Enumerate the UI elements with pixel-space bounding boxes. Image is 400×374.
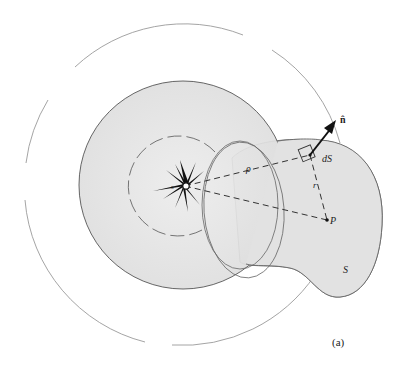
- source-center: [183, 183, 189, 189]
- label-source-s: s: [171, 183, 174, 191]
- label-ds: dS: [322, 153, 332, 164]
- label-surface-s: S: [343, 264, 348, 275]
- label-rho: ρ: [245, 163, 251, 174]
- label-normal: n̂: [340, 114, 346, 125]
- diagram-figure: n̂ dS ρ r P S s (a): [0, 0, 400, 374]
- label-r: r: [313, 180, 317, 190]
- label-p: P: [329, 215, 336, 226]
- point-p: [325, 218, 329, 222]
- panel-label: (a): [332, 336, 345, 349]
